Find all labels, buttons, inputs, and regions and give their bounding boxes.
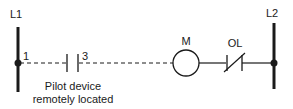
- left-rail-label: L1: [10, 8, 22, 20]
- right-power-rail: [271, 23, 278, 89]
- overload-nc-contact-symbol: [224, 53, 245, 72]
- wire-number-3: 3: [82, 50, 88, 62]
- right-rail-label: L2: [266, 7, 278, 19]
- wire-number-1: 1: [23, 50, 29, 62]
- pilot-device-caption-line1: Pilot device: [45, 80, 101, 92]
- overload-label: OL: [228, 37, 243, 49]
- ladder-diagram: L1 1 3 Pilot device remotely located M O…: [0, 0, 293, 109]
- pilot-device-caption-line2: remotely located: [33, 93, 114, 105]
- coil-m-symbol: [173, 50, 199, 76]
- pilot-device-contact-symbol: [67, 54, 78, 72]
- right-junction-dot: [271, 60, 278, 67]
- coil-label: M: [181, 35, 190, 47]
- left-power-rail: [15, 27, 22, 92]
